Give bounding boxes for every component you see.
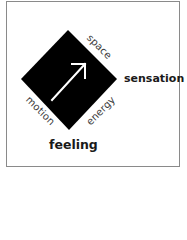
label-sensation: sensation [124,73,184,84]
label-feeling: feeling [49,139,98,152]
